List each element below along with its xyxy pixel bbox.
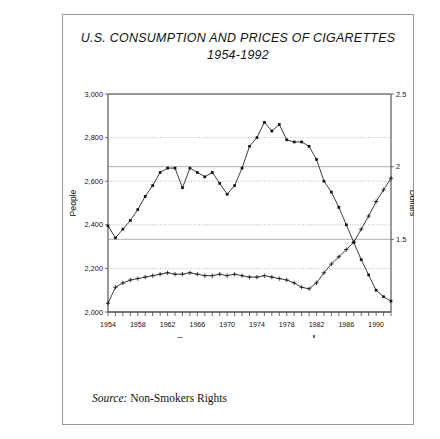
svg-text:1.5: 1.5 (396, 235, 406, 244)
source-label: Source: (92, 392, 127, 404)
svg-text:1978: 1978 (279, 321, 295, 329)
figure-page: U.S. CONSUMPTION AND PRICES OF CIGARETTE… (0, 0, 440, 439)
svg-text:2,800: 2,800 (85, 133, 104, 142)
y2-axis-tick-labels: 1.522.5 (391, 90, 406, 244)
svg-text:1974: 1974 (249, 321, 265, 329)
line-chart: 2,0002,2002,4002,6002,8003,000 1.522.5 1… (62, 88, 414, 338)
svg-text:2,000: 2,000 (85, 308, 104, 317)
svg-text:3,000: 3,000 (85, 90, 104, 99)
title-line-2: 1954-1992 (62, 47, 414, 64)
svg-text:1990: 1990 (368, 321, 384, 329)
source-note: Source: Non-Smokers Rights (92, 392, 227, 404)
grid-lines (108, 94, 391, 268)
svg-text:2,400: 2,400 (85, 220, 104, 229)
svg-text:People: People (68, 189, 78, 216)
svg-text:2: 2 (396, 162, 400, 171)
svg-text:1970: 1970 (219, 321, 235, 329)
svg-text:1982: 1982 (309, 321, 325, 329)
series-real-price-of-cigarettes (106, 176, 393, 305)
svg-text:1986: 1986 (338, 321, 354, 329)
axis-titles: PeopleDollars (68, 189, 414, 216)
svg-text:2,600: 2,600 (85, 177, 104, 186)
svg-text:Dollars: Dollars (408, 190, 414, 217)
svg-text:1962: 1962 (160, 321, 176, 329)
svg-text:1954: 1954 (100, 321, 116, 329)
svg-text:1958: 1958 (130, 321, 146, 329)
svg-text:2.5: 2.5 (396, 90, 406, 99)
chart-legend: Annual per capita consumptionReal price … (133, 335, 350, 338)
chart-area: 2,0002,2002,4002,6002,8003,000 1.522.5 1… (62, 88, 414, 338)
title-line-1: U.S. CONSUMPTION AND PRICES OF CIGARETTE… (81, 31, 396, 45)
source-value: Non-Smokers Rights (130, 392, 227, 404)
svg-text:1966: 1966 (189, 321, 205, 329)
page-title: U.S. CONSUMPTION AND PRICES OF CIGARETTE… (62, 30, 414, 64)
svg-text:2,200: 2,200 (85, 264, 104, 273)
y-axis-tick-labels: 2,0002,2002,4002,6002,8003,000 (85, 90, 109, 317)
x-axis-tick-labels: 1954195819621966197019741978198219861990 (100, 321, 384, 329)
